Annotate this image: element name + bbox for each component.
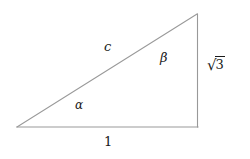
base-length-label: 1: [104, 135, 112, 148]
hypotenuse-label: c: [104, 40, 111, 53]
angle-beta-label: β: [160, 51, 168, 64]
height-length-label: √3: [207, 56, 225, 73]
triangle-figure: c β α 1 √3: [0, 0, 250, 159]
triangle-side-hypotenuse: [17, 14, 197, 127]
square-root-expression: √3: [207, 56, 225, 73]
radicand-value: 3: [215, 56, 225, 71]
angle-alpha-label: α: [75, 99, 83, 111]
triangle-shape: [0, 0, 250, 159]
